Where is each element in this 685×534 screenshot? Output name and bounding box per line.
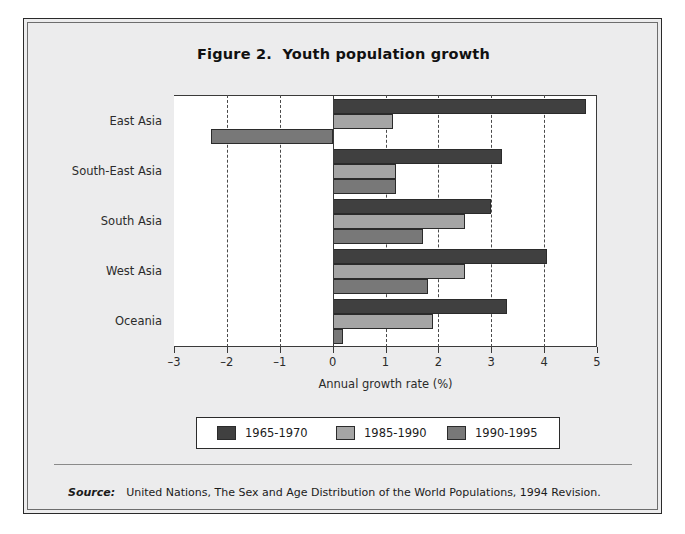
- bar: [333, 314, 433, 329]
- bar: [333, 164, 396, 179]
- legend-item-1965-1970[interactable]: 1965-1970: [217, 426, 308, 440]
- x-tick--2: [227, 347, 228, 353]
- x-tick-label-3: 3: [471, 355, 511, 369]
- x-tick--1: [280, 347, 281, 353]
- x-tick-label-4: 4: [524, 355, 564, 369]
- x-tick-2: [438, 347, 439, 353]
- x-tick-label--3: –3: [154, 355, 194, 369]
- zero-axis-line: [333, 95, 334, 347]
- x-tick-label--2: –2: [207, 355, 247, 369]
- gridline-4: [544, 95, 545, 347]
- source-divider: [54, 464, 632, 465]
- x-tick-4: [544, 347, 545, 353]
- bar: [333, 249, 547, 264]
- bar: [333, 229, 423, 244]
- bar: [211, 129, 333, 144]
- x-tick-label-5: 5: [577, 355, 617, 369]
- x-tick-label-0: 0: [313, 355, 353, 369]
- source-text: United Nations, The Sex and Age Distribu…: [126, 486, 601, 499]
- bar: [333, 199, 492, 214]
- bar: [333, 179, 396, 194]
- x-tick-label--1: –1: [260, 355, 300, 369]
- legend-swatch-1985-1990: [336, 426, 355, 440]
- bar: [333, 299, 507, 314]
- legend-label-1990-1995: 1990-1995: [475, 426, 538, 440]
- source-label: Source:: [68, 486, 115, 499]
- x-tick-0: [333, 347, 334, 353]
- legend-item-1990-1995[interactable]: 1990-1995: [447, 426, 538, 440]
- category-label-east-asia: East Asia: [0, 114, 162, 128]
- legend-label-1965-1970: 1965-1970: [245, 426, 308, 440]
- bar: [333, 149, 502, 164]
- x-tick-label-2: 2: [418, 355, 458, 369]
- x-tick--3: [174, 347, 175, 353]
- source-note: Source:United Nations, The Sex and Age D…: [54, 473, 644, 512]
- category-label-south-east-asia: South-East Asia: [0, 164, 162, 178]
- bar: [333, 214, 465, 229]
- x-tick-label-1: 1: [366, 355, 406, 369]
- category-label-south-asia: South Asia: [0, 214, 162, 228]
- x-axis-title: Annual growth rate (%): [174, 377, 597, 391]
- legend-swatch-1965-1970: [217, 426, 236, 440]
- bar: [333, 99, 587, 114]
- x-tick-5: [597, 347, 598, 353]
- figure-title: Figure 2. Youth population growth: [24, 46, 663, 62]
- category-label-oceania: Oceania: [0, 314, 162, 328]
- bar: [333, 114, 394, 129]
- legend-item-1985-1990[interactable]: 1985-1990: [336, 426, 427, 440]
- category-label-west-asia: West Asia: [0, 264, 162, 278]
- figure-panel: Figure 2. Youth population growth –3–2–1…: [23, 18, 662, 514]
- chart-plot: –3–2–1012345 East AsiaSouth-East AsiaSou…: [174, 95, 597, 347]
- chart-legend: 1965-19701985-19901990-1995: [196, 417, 560, 449]
- bar: [333, 279, 428, 294]
- legend-label-1985-1990: 1985-1990: [364, 426, 427, 440]
- bar: [333, 264, 465, 279]
- x-tick-1: [386, 347, 387, 353]
- legend-swatch-1990-1995: [447, 426, 466, 440]
- bar: [333, 329, 344, 344]
- x-tick-3: [491, 347, 492, 353]
